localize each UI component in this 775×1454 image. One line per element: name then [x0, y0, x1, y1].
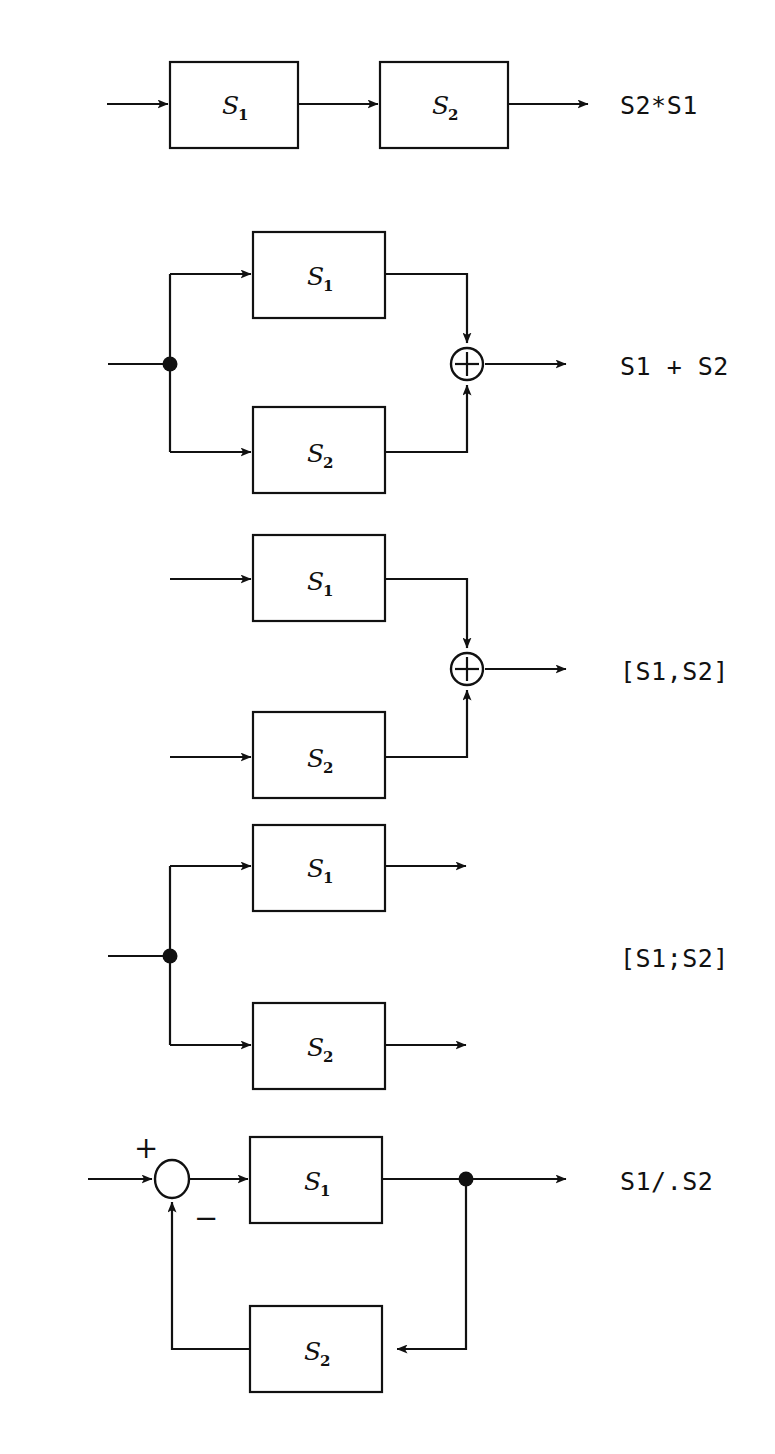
block-diagram-figure: S 1 S 2 S2*S1 S 1 S 2 S1 + S2: [0, 0, 775, 1454]
summing-circle-icon: [155, 1160, 189, 1198]
block-s2-subscript: 2: [320, 1352, 330, 1370]
block-s1-label: S: [307, 262, 324, 291]
diagram-horizontal-concat: S 1 S 2 [S1,S2]: [170, 535, 729, 798]
block-s1-label: S: [304, 1167, 321, 1196]
block-s2-label: S: [307, 439, 324, 468]
block-s1-subscript: 1: [320, 1182, 330, 1200]
diagram-series: S 1 S 2 S2*S1: [107, 62, 698, 148]
result-label-horizontal-concat: [S1,S2]: [620, 657, 729, 686]
block-s1-label: S: [222, 91, 239, 120]
result-label-series: S2*S1: [620, 91, 698, 120]
block-s1-subscript: 1: [323, 277, 333, 295]
result-label-parallel-sum: S1 + S2: [620, 352, 729, 381]
block-s2-subscript: 2: [448, 106, 458, 124]
block-s2-label: S: [304, 1337, 321, 1366]
block-s2-subscript: 2: [323, 454, 333, 472]
block-s2-subscript: 2: [323, 759, 333, 777]
s2-output-wire: [385, 690, 467, 757]
feedback-return-wire: [397, 1179, 466, 1349]
minus-sign-label: −: [194, 1201, 218, 1235]
diagram-parallel-sum: S 1 S 2 S1 + S2: [108, 232, 729, 493]
block-s1-label: S: [307, 854, 324, 883]
block-s2-label: S: [307, 744, 324, 773]
block-s1-label: S: [307, 567, 324, 596]
block-s1-subscript: 1: [323, 582, 333, 600]
figure-canvas: S 1 S 2 S2*S1 S 1 S 2 S1 + S2: [0, 0, 775, 1454]
block-s1-subscript: 1: [238, 106, 248, 124]
diagram-feedback: + − S 1 S 2 S1/.S2: [88, 1131, 713, 1392]
block-s2-label: S: [432, 91, 449, 120]
block-s2-subscript: 2: [323, 1048, 333, 1066]
result-label-feedback: S1/.S2: [620, 1167, 713, 1196]
block-s2-label: S: [307, 1033, 324, 1062]
s1-output-wire: [385, 274, 467, 343]
s1-output-wire: [385, 579, 467, 648]
diagram-vertical-concat: S 1 S 2 [S1;S2]: [108, 825, 729, 1089]
block-s1-subscript: 1: [323, 869, 333, 887]
result-label-vertical-concat: [S1;S2]: [620, 944, 729, 973]
s2-output-wire: [385, 385, 467, 452]
plus-sign-label: +: [134, 1131, 158, 1165]
